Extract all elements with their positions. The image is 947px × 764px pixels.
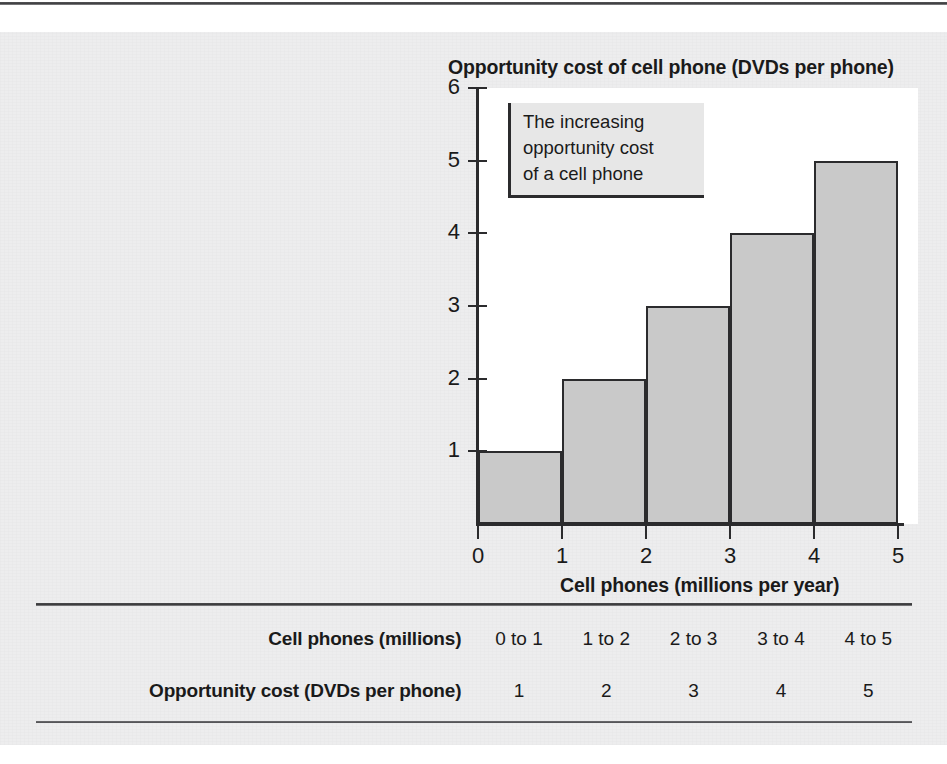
- x-axis-tick: [477, 524, 479, 539]
- page-top-rule: [0, 2, 947, 5]
- y-axis-tick: [468, 450, 487, 452]
- table-cell: 3: [650, 664, 737, 716]
- x-axis-tick-label: 0: [454, 544, 502, 568]
- y-axis-tick: [468, 378, 487, 380]
- annotation-line-2: opportunity cost: [523, 135, 700, 161]
- table-top-rule: [36, 603, 912, 606]
- x-axis-tick-label: 5: [874, 544, 922, 568]
- table-cell: 4: [737, 664, 824, 716]
- y-axis-tick: [468, 87, 487, 89]
- annotation-line-1: The increasing: [523, 109, 700, 135]
- x-axis-tick: [561, 524, 563, 539]
- bar: [562, 379, 646, 524]
- y-axis-tick-label: 6: [426, 76, 460, 98]
- table-cell: 1 to 2: [563, 612, 650, 664]
- table-row: Cell phones (millions)0 to 11 to 22 to 3…: [36, 612, 912, 664]
- y-axis-tick-label: 2: [426, 367, 460, 389]
- x-axis-line: [476, 523, 904, 526]
- table-cell: 2: [563, 664, 650, 716]
- table-bottom-rule: [36, 721, 912, 723]
- chart-title: Opportunity cost of cell phone (DVDs per…: [448, 56, 944, 79]
- table-cell: 1: [475, 664, 562, 716]
- y-axis-line: [476, 88, 479, 526]
- table-cell: 4 to 5: [825, 612, 912, 664]
- x-axis-title: Cell phones (millions per year): [560, 574, 940, 597]
- y-axis-tick: [468, 232, 487, 234]
- x-axis-tick: [645, 524, 647, 539]
- x-axis-tick: [729, 524, 731, 539]
- table-cell: 0 to 1: [475, 612, 562, 664]
- y-axis-tick: [468, 160, 487, 162]
- x-axis-tick-label: 4: [790, 544, 838, 568]
- x-axis-tick: [897, 524, 899, 539]
- x-axis-tick: [813, 524, 815, 539]
- y-axis-tick: [468, 305, 487, 307]
- bar: [814, 161, 898, 524]
- table-row-label: Cell phones (millions): [36, 612, 475, 664]
- x-axis-tick-label: 3: [706, 544, 754, 568]
- table-row-label: Opportunity cost (DVDs per phone): [36, 664, 475, 716]
- data-table: Cell phones (millions)0 to 11 to 22 to 3…: [36, 612, 912, 716]
- table-cell: 3 to 4: [737, 612, 824, 664]
- y-axis-tick-label: 4: [426, 221, 460, 243]
- table-body: Cell phones (millions)0 to 11 to 22 to 3…: [36, 612, 912, 716]
- y-axis-tick-label: 1: [426, 439, 460, 461]
- x-axis-tick-label: 2: [622, 544, 670, 568]
- annotation-line-3: of a cell phone: [523, 161, 700, 187]
- x-axis-tick-label: 1: [538, 544, 586, 568]
- table-row: Opportunity cost (DVDs per phone)12345: [36, 664, 912, 716]
- annotation-callout: The increasing opportunity cost of a cel…: [508, 103, 704, 198]
- table-cell: 2 to 3: [650, 612, 737, 664]
- table-cell: 5: [825, 664, 912, 716]
- bar: [646, 306, 730, 524]
- y-axis-tick-label: 3: [426, 294, 460, 316]
- bar: [478, 451, 562, 524]
- y-axis-tick-label: 5: [426, 149, 460, 171]
- bar: [730, 233, 814, 524]
